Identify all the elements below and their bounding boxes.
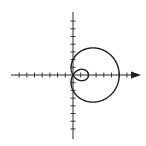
x-axis-arrow-icon (131, 72, 141, 79)
polar-plot (0, 0, 146, 146)
